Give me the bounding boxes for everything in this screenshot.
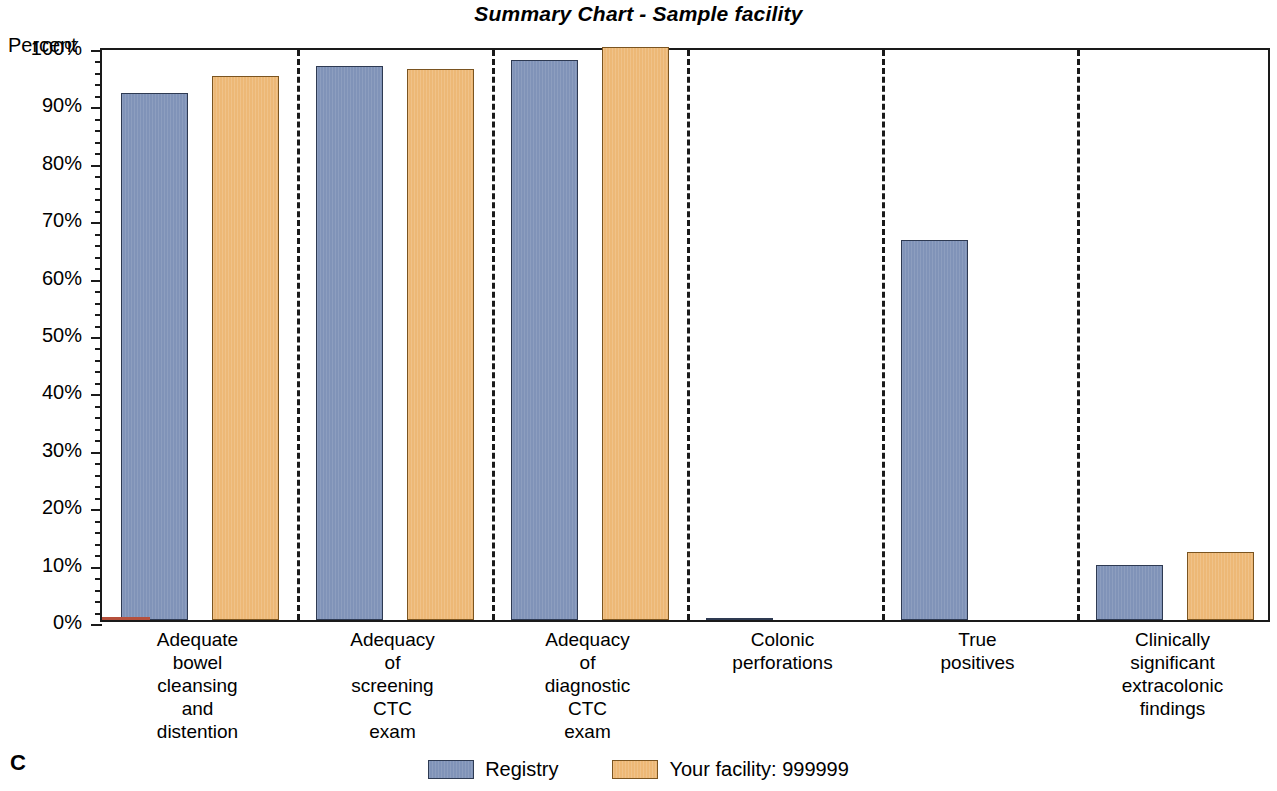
plot-area <box>100 48 1270 622</box>
y-axis-minor-tick <box>95 73 102 75</box>
bar-registry[interactable] <box>316 66 383 620</box>
y-axis-minor-tick <box>95 463 102 465</box>
y-axis-minor-tick <box>95 406 102 408</box>
bar-registry[interactable] <box>706 618 773 620</box>
bar-registry[interactable] <box>511 60 578 620</box>
bar-registry[interactable] <box>1096 565 1163 620</box>
y-axis-tick-label: 40% <box>42 381 82 404</box>
y-axis-minor-tick <box>95 360 102 362</box>
y-axis-minor-tick <box>95 417 102 419</box>
y-axis-major-tick <box>91 165 102 167</box>
y-axis-minor-tick <box>95 326 102 328</box>
y-axis-minor-tick <box>95 257 102 259</box>
y-axis-minor-tick <box>95 314 102 316</box>
y-axis-tick-label: 90% <box>42 94 82 117</box>
group-separator-line <box>882 50 885 620</box>
group-separator-line <box>687 50 690 620</box>
chart-title: Summary Chart - Sample facility <box>0 2 1277 26</box>
legend-swatch-facility <box>612 760 658 779</box>
y-axis-minor-tick <box>95 119 102 121</box>
y-axis-minor-tick <box>95 234 102 236</box>
y-axis-tick-label: 10% <box>42 553 82 576</box>
legend-label: Your facility: 999999 <box>669 758 848 781</box>
group-separator-line <box>1077 50 1080 620</box>
y-axis-major-tick <box>91 222 102 224</box>
legend-swatch-registry <box>428 760 474 779</box>
y-axis-minor-tick <box>95 429 102 431</box>
y-axis-minor-tick <box>95 498 102 500</box>
x-axis-category-labels: Adequate bowel cleansing and distentionA… <box>100 628 1270 748</box>
y-axis-major-tick <box>91 107 102 109</box>
bar-facility[interactable] <box>407 69 474 620</box>
bar-facility[interactable] <box>212 76 279 620</box>
x-axis-category-label: True positives <box>880 628 1075 674</box>
y-axis-minor-tick <box>95 590 102 592</box>
y-axis-minor-tick <box>95 578 102 580</box>
y-axis-tick-label: 80% <box>42 151 82 174</box>
legend-item[interactable]: Your facility: 999999 <box>612 758 848 781</box>
legend-item[interactable]: Registry <box>428 758 558 781</box>
group-separator-line <box>492 50 495 620</box>
legend-label: Registry <box>485 758 558 781</box>
x-axis-category-label: Colonic perforations <box>685 628 880 674</box>
y-axis-minor-tick <box>95 486 102 488</box>
y-axis-major-tick <box>91 452 102 454</box>
y-axis-minor-tick <box>95 199 102 201</box>
y-axis-tick-labels: 0%10%20%30%40%50%60%70%80%90%100% <box>0 48 96 622</box>
y-axis-major-tick <box>91 280 102 282</box>
y-axis-tick-label: 70% <box>42 209 82 232</box>
y-axis-minor-tick <box>95 371 102 373</box>
y-axis-minor-tick <box>95 383 102 385</box>
y-axis-tick-label: 60% <box>42 266 82 289</box>
baseline-artifact <box>102 617 150 620</box>
group-separator-line <box>297 50 300 620</box>
y-axis-minor-tick <box>95 176 102 178</box>
chart-page: Summary Chart - Sample facility Percent … <box>0 0 1277 791</box>
bar-registry[interactable] <box>121 93 188 620</box>
y-axis-major-tick <box>91 337 102 339</box>
x-axis-category-label: Clinically significant extracolonic find… <box>1075 628 1270 720</box>
y-axis-minor-tick <box>95 130 102 132</box>
y-axis-major-tick <box>91 50 102 52</box>
bar-facility[interactable] <box>602 47 669 620</box>
y-axis-minor-tick <box>95 555 102 557</box>
x-axis-category-label: Adequate bowel cleansing and distention <box>100 628 295 743</box>
y-axis-minor-tick <box>95 532 102 534</box>
bar-facility[interactable] <box>1187 552 1254 620</box>
y-axis-tick-label: 20% <box>42 496 82 519</box>
y-axis-tick-label: 0% <box>53 611 82 634</box>
y-axis-minor-tick <box>95 268 102 270</box>
bar-registry[interactable] <box>901 240 968 620</box>
y-axis-minor-tick <box>95 142 102 144</box>
y-axis-tick-label: 100% <box>31 37 82 60</box>
y-axis-minor-tick <box>95 188 102 190</box>
y-axis-minor-tick <box>95 348 102 350</box>
y-axis-tick-label: 50% <box>42 324 82 347</box>
y-axis-major-tick <box>91 509 102 511</box>
x-axis-category-label: Adequacy of diagnostic CTC exam <box>490 628 685 743</box>
y-axis-minor-tick <box>95 291 102 293</box>
y-axis-major-tick <box>91 567 102 569</box>
y-axis-minor-tick <box>95 303 102 305</box>
y-axis-minor-tick <box>95 96 102 98</box>
y-axis-minor-tick <box>95 601 102 603</box>
y-axis-major-tick <box>91 394 102 396</box>
y-axis-minor-tick <box>95 544 102 546</box>
x-axis-category-label: Adequacy of screening CTC exam <box>295 628 490 743</box>
y-axis-minor-tick <box>95 475 102 477</box>
y-axis-major-tick <box>91 624 102 626</box>
y-axis-minor-tick <box>95 613 102 615</box>
y-axis-tick-label: 30% <box>42 438 82 461</box>
y-axis-minor-tick <box>95 153 102 155</box>
y-axis-minor-tick <box>95 245 102 247</box>
y-axis-minor-tick <box>95 61 102 63</box>
y-axis-minor-tick <box>95 84 102 86</box>
y-axis-minor-tick <box>95 440 102 442</box>
y-axis-minor-tick <box>95 211 102 213</box>
chart-legend: RegistryYour facility: 999999 <box>0 758 1277 781</box>
y-axis-minor-tick <box>95 521 102 523</box>
